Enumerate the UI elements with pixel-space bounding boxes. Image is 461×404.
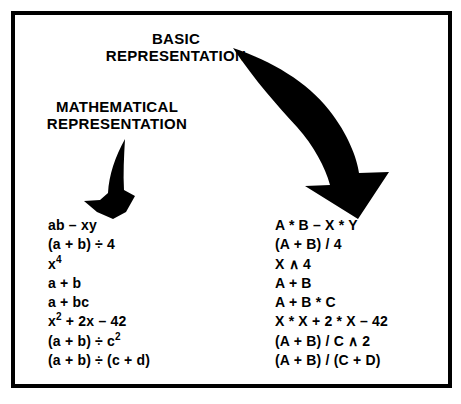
- expression-superscript: 4: [56, 254, 62, 265]
- math-heading-line-2: REPRESENTATION: [37, 115, 197, 132]
- basic-heading-line-2: REPRESENTATION: [96, 47, 256, 64]
- expression-row: ab – xy: [48, 216, 150, 235]
- basic-heading-line-1: BASIC: [96, 30, 256, 47]
- expression-base: (a + b) ÷ c: [48, 333, 115, 349]
- expression-row: X * X + 2 * X – 42: [275, 312, 388, 331]
- expression-base: x: [48, 313, 56, 329]
- expression-superscript: 2: [115, 331, 121, 342]
- basic-expression-list: A * B – X * Y (A + B) / 4 X ∧ 4 A + B A …: [275, 216, 388, 370]
- figure-container: BASIC REPRESENTATION MATHEMATICAL REPRES…: [0, 0, 461, 404]
- expression-row: x4: [48, 255, 150, 274]
- expression-row: (a + b) ÷ c2: [48, 332, 150, 351]
- mathematical-representation-heading: MATHEMATICAL REPRESENTATION: [37, 98, 197, 132]
- mathematical-expression-list: ab – xy (a + b) ÷ 4 x4 a + b a + bc x2 +…: [48, 216, 150, 370]
- expression-row: A * B – X * Y: [275, 216, 388, 235]
- expression-row: X ∧ 4: [275, 255, 388, 274]
- expression-row: (a + b) ÷ 4: [48, 235, 150, 254]
- math-heading-line-1: MATHEMATICAL: [37, 98, 197, 115]
- expression-row: (a + b) ÷ (c + d): [48, 351, 150, 370]
- expression-row: (A + B) / 4: [275, 235, 388, 254]
- expression-base: x: [48, 256, 56, 272]
- expression-row: a + b: [48, 274, 150, 293]
- expression-row: A + B: [275, 274, 388, 293]
- expression-row: x2 + 2x – 42: [48, 312, 150, 331]
- expression-tail: + 2x – 42: [62, 313, 127, 329]
- expression-row: a + bc: [48, 293, 150, 312]
- expression-row: A + B * C: [275, 293, 388, 312]
- expression-row: (A + B) / (C + D): [275, 351, 388, 370]
- expression-row: (A + B) / C ∧ 2: [275, 332, 388, 351]
- basic-representation-heading: BASIC REPRESENTATION: [96, 30, 256, 64]
